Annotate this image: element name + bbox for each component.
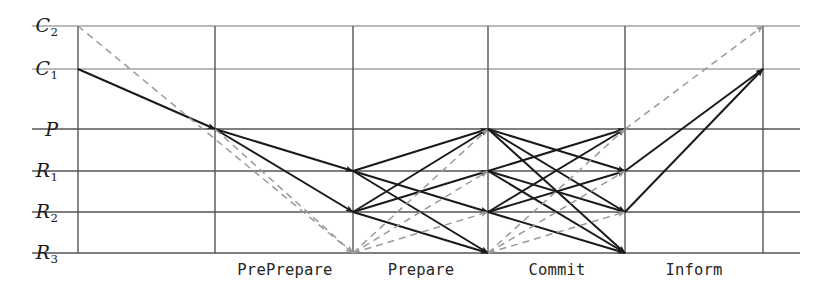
row-label-P: P [0,118,58,140]
phase-divider-lines [78,26,763,253]
message-inform-P-to-C2 [625,26,763,129]
row-label-subscript: 1 [50,67,58,81]
phase-label-commit: Commit [528,261,585,279]
message-inform-R1-to-C1 [625,69,763,171]
message-preprepare-P-to-R3 [215,129,353,253]
message-arrows [78,26,763,253]
row-label-base: R [36,200,50,222]
phase-label-inform: Inform [665,261,722,279]
row-label-R2: R2 [0,200,58,225]
message-request-C1-to-P [78,69,215,129]
message-preprepare-P-to-R1 [215,129,353,171]
phase-label-prepare: Prepare [388,261,455,279]
row-label-C1: C1 [0,57,58,82]
row-label-base: P [45,118,58,140]
row-label-base: R [36,241,50,263]
row-label-base: R [36,159,50,181]
row-label-base: C [35,57,50,79]
message-prepare-R2-to-R3 [353,212,488,253]
row-label-R1: R1 [0,159,58,184]
diagram-canvas: C2C1PR1R2R3 PrePreparePrepareCommitInfor… [0,0,813,294]
phase-label-preprepare: PrePrepare [237,261,332,279]
row-label-C2: C2 [0,14,58,39]
row-label-subscript: 2 [50,210,58,224]
row-label-subscript: 1 [50,169,58,183]
row-label-base: C [35,14,50,36]
timeline-row-lines [32,26,800,253]
message-flow-svg [0,0,813,294]
message-prepare-R1-to-P [353,129,488,171]
row-label-R3: R3 [0,241,58,266]
message-inform-R2-to-C1 [625,69,763,212]
row-label-subscript: 3 [50,251,58,265]
row-label-subscript: 2 [50,24,58,38]
